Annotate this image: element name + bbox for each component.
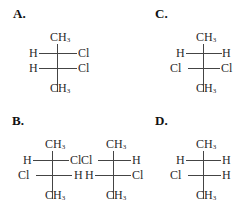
fischer-projection-a: CH3CH3 H Cl H Cl CH3CH3 (12, 30, 102, 100)
row1-left: H (176, 47, 185, 59)
row2-right: Cl (132, 169, 143, 181)
bottom-group: CH3CH3 (196, 189, 216, 204)
row1-right: H (222, 47, 231, 59)
row1-bond (186, 160, 221, 161)
top-group: CH3CH3 (196, 138, 216, 153)
row2-right: Cl (221, 62, 232, 74)
fischer-projection-d: CH3CH3 H H Cl H CH3CH3 (158, 137, 240, 207)
top-group: CH3CH3 (45, 138, 65, 153)
top-group: CH3CH3 (50, 31, 70, 46)
row2-right: H (222, 169, 231, 181)
row2-left: Cl (170, 62, 181, 74)
option-label-a: A. (13, 6, 26, 22)
bottom-group: CH3CH3 (50, 82, 70, 97)
row1-right: Cl (78, 47, 89, 59)
row2-bond (188, 175, 221, 176)
row2-left: Cl (170, 169, 181, 181)
row2-bond (36, 175, 72, 176)
row1-left: H (29, 47, 38, 59)
row2-left: Cl (18, 169, 29, 181)
row1-right: H (132, 154, 141, 166)
row1-bond (98, 160, 131, 161)
fischer-projection-b2: CH3CH3 Cl H H Cl CH3CH3 (68, 137, 158, 207)
row2-right: Cl (78, 62, 89, 74)
row1-left: H (176, 154, 185, 166)
row2-bond (95, 175, 131, 176)
row2-left: H (29, 62, 38, 74)
row1-left: H (23, 154, 32, 166)
row2-left: H (85, 169, 94, 181)
row1-bond (39, 53, 77, 54)
row1-bond (186, 53, 222, 54)
option-label-c: C. (155, 6, 168, 22)
row1-right: H (222, 154, 231, 166)
option-label-b: B. (12, 113, 24, 129)
bottom-group: CH3CH3 (196, 82, 216, 97)
row2-bond (188, 68, 220, 69)
row1-bond (33, 160, 69, 161)
row1-left: Cl (81, 154, 92, 166)
row2-bond (39, 68, 77, 69)
top-group: CH3CH3 (106, 138, 126, 153)
bottom-group: CH3CH3 (45, 189, 65, 204)
bottom-group: CH3CH3 (106, 189, 126, 204)
fischer-projection-c: CH3CH3 H H Cl Cl CH3CH3 (158, 30, 240, 100)
top-group: CH3CH3 (196, 31, 216, 46)
option-label-d: D. (155, 113, 168, 129)
